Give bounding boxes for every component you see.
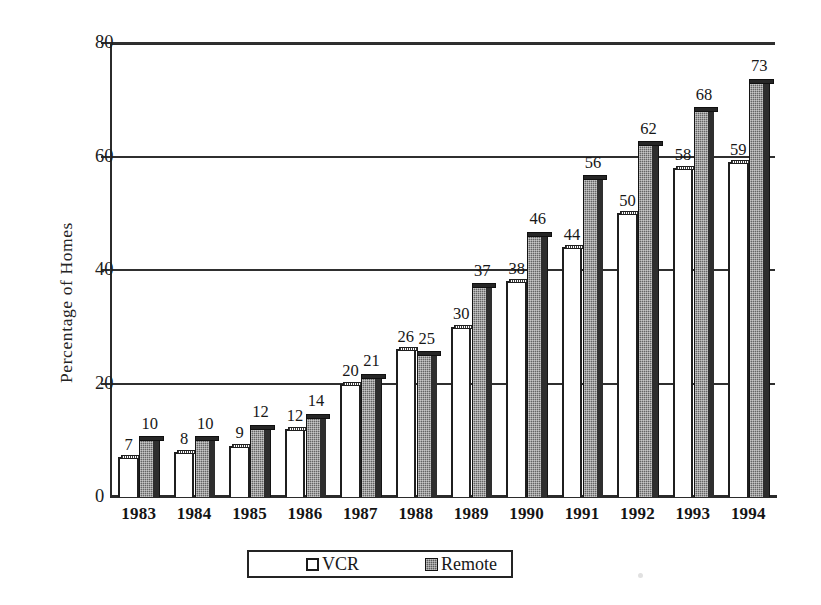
bar-vcr-1990: 38 [506, 281, 527, 497]
bar-group: 5868 [673, 43, 715, 497]
y-axis-title: Percentage of Homes [44, 0, 88, 605]
x-tick-label: 1993 [675, 504, 710, 524]
bar-vcr-1988: 26 [396, 349, 417, 497]
bar-value-label: 37 [474, 263, 491, 280]
bar-value-label: 58 [675, 147, 692, 164]
bar-value-label: 38 [508, 261, 525, 278]
bar-value-label: 20 [342, 363, 359, 380]
bar-vcr-1984: 8 [174, 452, 195, 497]
y-tick-label: 20 [95, 373, 98, 394]
x-tick-label: 1991 [565, 504, 600, 524]
bar-value-label: 30 [453, 306, 470, 323]
x-tick-label: 1983 [121, 504, 156, 524]
x-tick-label: 1994 [731, 504, 766, 524]
bar-vcr-1991: 44 [562, 247, 583, 497]
bar-remote-1992: 62 [638, 145, 659, 497]
bar-value-label: 12 [252, 404, 269, 421]
bar-remote-1991: 56 [583, 179, 604, 497]
bar-vcr-1992: 50 [617, 213, 638, 497]
bar-value-label: 59 [730, 142, 747, 159]
bar-group: 5062 [617, 43, 659, 497]
bar-vcr-1986: 12 [285, 429, 306, 497]
bar-vcr-1983: 7 [118, 457, 139, 497]
bar-value-label: 10 [141, 416, 158, 433]
bar-value-label: 7 [125, 437, 133, 454]
filled-square-swatch-icon [425, 558, 438, 571]
bar-group: 3037 [451, 43, 493, 497]
x-tick-label: 1989 [454, 504, 489, 524]
bar-value-label: 62 [640, 121, 657, 138]
bar-group: 4456 [562, 43, 604, 497]
bar-remote-1994: 73 [749, 83, 770, 497]
bar-remote-1988: 25 [417, 355, 438, 497]
bar-value-label: 44 [564, 227, 581, 244]
bar-value-label: 56 [585, 155, 602, 172]
x-tick-label: 1986 [288, 504, 323, 524]
bar-vcr-1985: 9 [229, 446, 250, 497]
x-tick-label: 1987 [343, 504, 378, 524]
bar-remote-1993: 68 [694, 111, 715, 497]
bar-remote-1984: 10 [195, 440, 216, 497]
bar-vcr-1987: 20 [340, 384, 361, 498]
bar-value-label: 68 [696, 87, 713, 104]
bar-value-label: 25 [419, 331, 436, 348]
bar-group: 710 [118, 43, 160, 497]
bar-group: 3846 [506, 43, 548, 497]
bar-value-label: 9 [235, 425, 243, 442]
chart-legend: VCR Remote [247, 550, 513, 578]
bar-vcr-1994: 59 [728, 162, 749, 497]
y-tick-label: 80 [95, 32, 98, 53]
x-axis-labels: 1983198419851986198719881989199019911992… [110, 504, 775, 530]
bar-remote-1983: 10 [139, 440, 160, 497]
bar-value-label: 21 [363, 353, 380, 370]
bar-group: 810 [174, 43, 216, 497]
bar-vcr-1989: 30 [451, 327, 472, 497]
bar-remote-1985: 12 [250, 429, 271, 497]
bar-group: 1214 [285, 43, 327, 497]
legend-entry-vcr: VCR [306, 554, 359, 575]
bar-value-label: 73 [751, 58, 768, 75]
x-tick-label: 1985 [232, 504, 267, 524]
bar-group: 5973 [728, 43, 770, 497]
bar-chart-figure: Percentage of Homes 020406080 7108109121… [0, 0, 821, 605]
x-tick-label: 1984 [177, 504, 212, 524]
bar-value-label: 10 [197, 416, 214, 433]
bar-value-label: 8 [180, 431, 188, 448]
bar-remote-1987: 21 [361, 378, 382, 497]
bar-value-label: 14 [308, 393, 325, 410]
y-tick-label: 60 [95, 146, 98, 167]
bar-value-label: 50 [619, 193, 636, 210]
bar-remote-1990: 46 [527, 236, 548, 497]
legend-label-remote: Remote [441, 554, 497, 575]
y-tick-label: 40 [95, 259, 98, 280]
legend-entry-remote: Remote [425, 554, 497, 575]
bar-remote-1986: 14 [306, 418, 327, 497]
bar-vcr-1993: 58 [673, 168, 694, 497]
bar-group: 2021 [340, 43, 382, 497]
x-tick-label: 1988 [398, 504, 433, 524]
bar-value-label: 46 [529, 211, 546, 228]
open-square-swatch-icon [306, 558, 319, 571]
legend-label-vcr: VCR [322, 554, 359, 575]
x-tick-label: 1992 [620, 504, 655, 524]
bar-value-label: 26 [398, 329, 415, 346]
bar-value-label: 12 [287, 408, 304, 425]
y-tick-label: 0 [95, 486, 98, 507]
bar-group: 912 [229, 43, 271, 497]
bar-group: 2625 [396, 43, 438, 497]
bar-remote-1989: 37 [472, 287, 493, 497]
x-tick-label: 1990 [509, 504, 544, 524]
scan-artifact [638, 573, 643, 578]
bars-layer: 7108109121214202126253037384644565062586… [110, 43, 775, 497]
